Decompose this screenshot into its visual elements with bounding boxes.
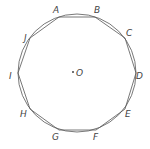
vertex-label-c: C [126, 28, 133, 38]
vertex-label-e: E [125, 109, 131, 119]
vertex-label-j: J [22, 33, 27, 43]
vertex-label-h: H [20, 109, 27, 119]
center-label: O [76, 68, 83, 78]
vertex-label-f: F [93, 132, 99, 142]
vertex-label-a: A [52, 5, 59, 15]
vertex-label-g: G [52, 132, 59, 142]
vertex-label-i: I [9, 71, 12, 81]
decagon-diagram: ABCDEFGHIJ O [0, 0, 150, 149]
vertex-label-b: B [94, 5, 100, 15]
center-point [72, 71, 74, 73]
vertex-label-d: D [136, 71, 143, 81]
